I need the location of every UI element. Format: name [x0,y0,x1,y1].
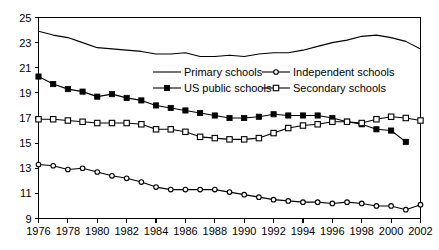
legend-entry: Primary schools [153,66,263,78]
data-marker [389,128,394,133]
data-marker [300,113,305,118]
data-marker [95,170,100,175]
data-marker [330,119,335,124]
data-marker [66,167,71,172]
legend-label: Secondary schools [293,82,386,94]
data-marker [50,117,55,122]
data-marker [374,117,379,122]
y-tick-label: 13 [19,162,31,174]
data-marker [197,134,202,139]
data-marker [51,81,56,86]
data-marker [198,110,203,115]
data-marker [36,117,41,122]
data-marker [271,197,276,202]
data-marker [154,185,159,190]
data-marker [256,135,261,140]
legend-label: Primary schools [184,66,263,78]
data-marker [212,113,217,118]
data-marker [257,195,262,200]
data-marker [139,98,144,103]
data-marker [271,130,276,135]
data-marker [227,115,232,120]
x-tick-label: 1988 [203,225,227,237]
data-marker [403,115,408,120]
series-primary-schools [39,31,421,56]
data-marker [271,112,276,117]
y-tick-label: 19 [19,87,31,99]
data-marker [168,187,173,192]
legend-entry: Independent schools [262,66,395,78]
data-marker [404,207,409,212]
data-marker [227,137,232,142]
data-marker [359,201,364,206]
data-marker [286,113,291,118]
data-marker [109,92,114,97]
data-marker [164,85,169,90]
data-marker [418,202,423,207]
legend-entry: Secondary schools [262,82,386,94]
data-marker [168,105,173,110]
data-marker [374,127,379,132]
data-marker [286,199,291,204]
x-tick-label: 2000 [379,225,403,237]
x-tick-label: 1984 [144,225,168,237]
y-tick-label: 11 [20,187,31,199]
x-tick-label: 1986 [173,225,197,237]
data-marker [80,119,85,124]
data-marker [315,122,320,127]
data-marker [36,74,41,79]
y-tick-label: 9 [25,213,31,225]
line-chart: 9111315171921232519761978198019821984198… [0,0,439,250]
x-tick-label: 1976 [26,225,50,237]
x-tick-label: 1998 [349,225,373,237]
x-tick-label: 1980 [85,225,109,237]
y-tick-label: 23 [19,37,31,49]
data-marker [168,127,173,132]
data-marker [315,113,320,118]
data-marker [418,118,423,123]
data-marker [80,166,85,171]
data-marker [153,103,158,108]
data-marker [315,200,320,205]
y-tick-label: 17 [19,112,31,124]
data-marker [345,200,350,205]
data-marker [300,123,305,128]
data-marker [65,87,70,92]
data-marker [51,163,56,168]
data-marker [256,114,261,119]
data-marker [109,120,114,125]
data-marker [330,201,335,206]
data-marker [274,70,279,75]
data-marker [65,118,70,123]
data-marker [124,95,129,100]
x-tick-label: 1992 [261,225,285,237]
y-tick-label: 25 [19,12,31,24]
data-marker [241,137,246,142]
chart-container: 9111315171921232519761978198019821984198… [0,0,439,250]
data-marker [389,204,394,209]
legend-label: US public schools [184,82,272,94]
data-marker [139,122,144,127]
data-marker [359,120,364,125]
data-marker [403,139,408,144]
legend-entry: US public schools [153,82,272,94]
data-marker [242,192,247,197]
data-marker [301,200,306,205]
x-tick-label: 2002 [408,225,432,237]
x-tick-label: 1996 [320,225,344,237]
data-marker [95,94,100,99]
data-marker [124,120,129,125]
legend-label: Independent schools [293,66,395,78]
data-marker [374,204,379,209]
data-marker [242,115,247,120]
data-marker [183,129,188,134]
x-tick-label: 1990 [232,225,256,237]
data-marker [227,190,232,195]
data-marker [36,162,41,167]
x-tick-label: 1978 [56,225,80,237]
data-marker [139,180,144,185]
data-marker [286,125,291,130]
data-marker [183,108,188,113]
data-marker [95,120,100,125]
data-marker [344,119,349,124]
